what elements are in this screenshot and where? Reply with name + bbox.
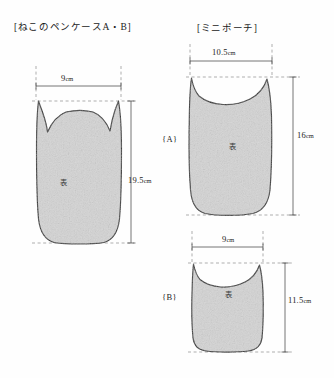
fabric-face-label-pouch-a: 表 bbox=[229, 143, 236, 150]
unit-cm: cm bbox=[228, 49, 236, 56]
pouch-b-fabric-piece bbox=[192, 264, 263, 352]
page-title-pencase: [ねこのペンケースA・B] bbox=[14, 23, 131, 33]
page-title-pouch: [ミニポーチ] bbox=[197, 24, 258, 34]
dimension-pouch-a-height: 16cm bbox=[297, 131, 314, 140]
unit-cm: cm bbox=[226, 236, 234, 243]
fabric-face-label-pouch-b: 表 bbox=[225, 291, 232, 298]
unit-cm: cm bbox=[303, 297, 311, 304]
pouch-b-height-dimension bbox=[282, 263, 289, 352]
dimension-pouch-b-height: 11.5cm bbox=[288, 296, 311, 305]
pouch-a-height-dimension bbox=[290, 77, 297, 215]
pencase-height-dimension bbox=[128, 101, 135, 243]
pattern-sheet: [ねこのペンケースA・B] [ミニポーチ] 9cm 19.5cm 10.5cm … bbox=[0, 0, 334, 378]
part-label-b: {B} bbox=[162, 293, 177, 302]
unit-cm: cm bbox=[306, 132, 314, 139]
pouch-b-width-dimension bbox=[192, 244, 263, 251]
unit-cm: cm bbox=[144, 177, 152, 184]
dimension-pouch-a-width: 10.5cm bbox=[212, 48, 236, 57]
part-label-a: {A} bbox=[162, 135, 178, 144]
pencase-fabric-piece bbox=[37, 101, 122, 244]
dimension-pencase-height: 19.5cm bbox=[128, 176, 152, 185]
pattern-drawing bbox=[0, 0, 334, 378]
dimension-pencase-width: 9cm bbox=[61, 74, 73, 83]
pouch-a-width-dimension bbox=[190, 58, 272, 65]
pencase-width-dimension bbox=[36, 83, 121, 90]
dimension-pouch-b-width: 9cm bbox=[222, 235, 234, 244]
fabric-face-label-pencase: 表 bbox=[60, 179, 67, 186]
unit-cm: cm bbox=[65, 75, 73, 82]
